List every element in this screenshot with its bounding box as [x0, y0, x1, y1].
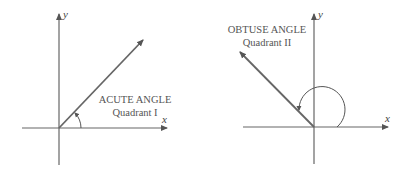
y-axis-label: y	[318, 8, 323, 20]
angle-arc	[75, 113, 81, 128]
quadrant-label: Quadrant I	[96, 107, 174, 119]
angle-type-label: OBTUSE ANGLE	[225, 24, 309, 36]
terminal-ray	[240, 52, 314, 127]
acute-angle-diagram	[22, 14, 167, 165]
angle-diagrams	[0, 0, 404, 172]
angle-arc	[299, 87, 345, 127]
x-axis-label: x	[385, 112, 390, 124]
y-axis-label: y	[63, 8, 68, 20]
quadrant-label: Quadrant II	[225, 37, 309, 49]
angle-type-label: ACUTE ANGLE	[96, 94, 174, 106]
